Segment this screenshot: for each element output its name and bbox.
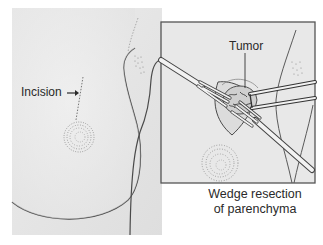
breast-fill [12, 8, 140, 219]
main-view [12, 8, 162, 235]
incision-label: Incision [21, 86, 62, 99]
caption-line-2: of parenchyma [175, 202, 323, 217]
tumor-label: Tumor [229, 40, 263, 53]
surgical-illustration: Incision Tumor Wedge resection of parenc… [0, 0, 323, 245]
caption-line-1: Wedge resection [175, 187, 323, 202]
inset-caption: Wedge resection of parenchyma [175, 187, 323, 217]
